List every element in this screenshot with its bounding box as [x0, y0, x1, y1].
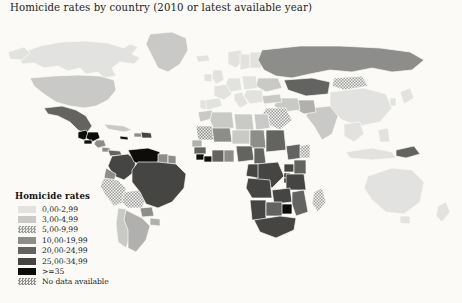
legend-item[interactable]: 0,00-2,99 — [14, 204, 134, 214]
region-senegal[interactable] — [192, 140, 202, 147]
legend-swatch — [18, 268, 36, 275]
region-uganda[interactable] — [284, 164, 294, 172]
region-jamaica[interactable] — [120, 136, 128, 140]
region-cote-divoire[interactable] — [212, 150, 224, 162]
legend-label: 5,00-9,99 — [42, 225, 78, 234]
legend-item[interactable]: 10,00-19,99 — [14, 235, 134, 245]
region-niger[interactable] — [232, 130, 250, 144]
region-united-kingdom[interactable] — [212, 70, 224, 84]
region-somalia[interactable] — [300, 144, 310, 158]
region-china[interactable] — [330, 88, 392, 126]
region-haiti[interactable] — [134, 133, 142, 137]
legend-swatch — [18, 278, 36, 285]
chart-title: Homicide rates by country (2010 or lates… — [10, 2, 312, 13]
region-turkey[interactable] — [262, 94, 282, 104]
region-greenland[interactable] — [146, 32, 188, 72]
region-dominican-republic[interactable] — [141, 132, 152, 138]
region-kenya[interactable] — [294, 160, 306, 174]
legend-item[interactable]: 20,00-24,99 — [14, 246, 134, 256]
legend-swatch — [18, 237, 36, 244]
region-angola[interactable] — [246, 178, 272, 198]
region-kazakhstan[interactable] — [284, 78, 330, 96]
region-egypt[interactable] — [254, 114, 270, 130]
region-botswana[interactable] — [266, 202, 282, 216]
region-uruguay[interactable] — [150, 218, 160, 226]
legend-swatch — [18, 247, 36, 254]
region-mali[interactable] — [212, 128, 232, 142]
region-southeast-asia[interactable] — [344, 122, 364, 142]
legend-item[interactable]: >=35 — [14, 266, 134, 276]
region-papua-new-guinea[interactable] — [396, 146, 420, 158]
legend-item[interactable]: 3,00-4,99 — [14, 214, 134, 224]
region-new-zealand[interactable] — [436, 202, 450, 222]
region-japan[interactable] — [400, 88, 414, 104]
region-philippines[interactable] — [378, 128, 390, 142]
region-libya[interactable] — [234, 114, 254, 130]
region-zambia[interactable] — [272, 188, 292, 204]
region-canada[interactable] — [18, 41, 140, 78]
region-indonesia[interactable] — [346, 148, 396, 160]
choropleth-figure: Homicide rates by country (2010 or lates… — [0, 0, 462, 303]
legend-swatch — [18, 216, 36, 223]
legend-swatch — [18, 258, 36, 265]
region-poland[interactable] — [242, 76, 258, 90]
region-iceland[interactable] — [196, 55, 210, 62]
region-mauritania[interactable] — [196, 126, 214, 140]
legend-label: No data available — [42, 277, 109, 286]
legend-swatch — [18, 226, 36, 233]
legend: Homicide rates 0,00-2,99 3,00-4,99 5,00-… — [14, 191, 134, 287]
region-portugal[interactable] — [200, 100, 206, 110]
region-paraguay[interactable] — [140, 207, 154, 217]
region-mozambique[interactable] — [292, 190, 308, 216]
region-madagascar[interactable] — [312, 188, 326, 212]
region-ireland[interactable] — [204, 74, 212, 82]
region-sweden[interactable] — [240, 54, 250, 70]
region-sierra-leone[interactable] — [196, 154, 204, 160]
region-russia[interactable] — [258, 46, 424, 78]
region-cameroon[interactable] — [254, 148, 266, 164]
legend-swatch — [18, 206, 36, 213]
legend-item[interactable]: 5,00-9,99 — [14, 225, 134, 235]
region-tasmania[interactable] — [400, 216, 410, 224]
region-ghana[interactable] — [224, 150, 234, 162]
region-congo[interactable] — [246, 164, 258, 178]
region-chad[interactable] — [250, 130, 266, 148]
region-el-salvador[interactable] — [84, 140, 92, 144]
region-guinea[interactable] — [194, 147, 206, 154]
region-namibia[interactable] — [250, 200, 266, 220]
legend-label: 10,00-19,99 — [42, 236, 88, 245]
legend-label: 20,00-24,99 — [42, 246, 88, 255]
legend-title: Homicide rates — [15, 191, 134, 201]
legend-item[interactable]: 25,00-34,99 — [14, 256, 134, 266]
region-mexico[interactable] — [44, 106, 92, 134]
region-suriname[interactable] — [168, 155, 176, 164]
legend-label: 3,00-4,99 — [42, 215, 78, 224]
legend-label: 0,00-2,99 — [42, 205, 78, 214]
region-nigeria[interactable] — [236, 146, 254, 162]
region-sudan[interactable] — [266, 130, 286, 152]
region-australia[interactable] — [364, 168, 424, 214]
region-usa[interactable] — [30, 75, 116, 108]
region-nicaragua[interactable] — [94, 140, 106, 148]
legend-label: >=35 — [42, 267, 64, 276]
region-korea[interactable] — [390, 98, 396, 106]
region-algeria[interactable] — [210, 112, 234, 130]
region-tanzania[interactable] — [286, 174, 306, 190]
region-south-africa[interactable] — [254, 216, 296, 238]
region-liberia[interactable] — [204, 156, 212, 162]
legend-item[interactable]: No data available — [14, 277, 134, 287]
region-cuba[interactable] — [104, 124, 132, 132]
legend-label: 25,00-34,99 — [42, 257, 88, 266]
region-ethiopia[interactable] — [286, 144, 302, 160]
